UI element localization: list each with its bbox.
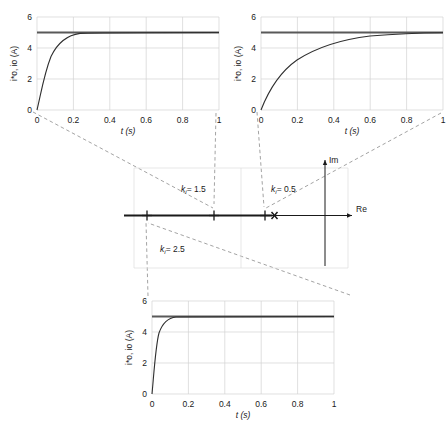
y-tick-6-tr: 6	[251, 12, 256, 22]
callout-lines-group	[33, 112, 441, 296]
gridlines-tr	[261, 17, 443, 110]
actual-current-trace-bottom	[152, 317, 334, 395]
gain-value-1p5: = 1.5	[187, 184, 206, 194]
x-axis-label-tl: t (s)	[121, 126, 136, 136]
y-tick-0-tr: 0	[251, 105, 256, 115]
x-ticks-bottom: 0 0.2 0.4 0.6 0.8 1	[150, 399, 337, 409]
callout-line-tr-to-pole05	[257, 112, 264, 207]
x-tick-02-tl: 0.2	[67, 115, 79, 125]
y-tick-4-tl: 4	[27, 43, 32, 53]
y-ticks-bottom: 6 4 2 0	[142, 296, 147, 399]
y-tick-4-bottom: 4	[142, 327, 147, 337]
y-axis-label-tl: i*o, io (A)	[9, 46, 19, 81]
callout-line-tl-right-to-pole15	[214, 113, 216, 204]
x-tick-08-tr: 0.8	[401, 115, 413, 125]
real-axis-label: Re	[356, 204, 367, 214]
y-tick-0-tl: 0	[27, 105, 32, 115]
imaginary-axis-label: Im	[329, 155, 338, 165]
gain-value-0p5: = 0.5	[277, 184, 296, 194]
x-tick-0-bottom: 0	[150, 399, 155, 409]
y-tick-4-tr: 4	[251, 43, 256, 53]
pole-marker-ki-0p5	[260, 211, 270, 221]
x-tick-02-bottom: 0.2	[182, 399, 194, 409]
gain-label-1p5: ki= 1.5	[181, 184, 206, 195]
gain-annotations-group: ki= 1.5 ki= 0.5 ki= 2.5	[160, 184, 296, 255]
y-tick-6-bottom: 6	[142, 296, 147, 306]
gain-value-2p5: = 2.5	[166, 244, 185, 254]
pole-marker-ki-2p5	[142, 211, 152, 221]
x-tick-04-tl: 0.4	[104, 115, 116, 125]
y-axis-label-bottom: i*o, io (A)	[124, 330, 134, 365]
x-tick-06-tl: 0.6	[140, 115, 152, 125]
y-tick-6-tl: 6	[27, 12, 32, 22]
x-tick-08-bottom: 0.8	[292, 399, 304, 409]
chart-response-ki-0p5: 6 4 2 0 0 0.2 0.4 0.6 0.8 1 t (s) i*o, i…	[233, 12, 446, 136]
y-tick-2-tl: 2	[27, 74, 32, 84]
x-tick-0-tr: 0	[259, 115, 264, 125]
y-tick-2-bottom: 2	[142, 358, 147, 368]
y-ticks-tr: 6 4 2 0	[251, 12, 256, 115]
x-tick-08-tl: 0.8	[177, 115, 189, 125]
x-tick-06-tr: 0.6	[364, 115, 376, 125]
callout-line-bottom-right-to-pole25	[148, 223, 350, 295]
x-tick-1-bottom: 1	[332, 399, 337, 409]
chart-response-ki-2p5: 6 4 2 0 0 0.2 0.4 0.6 0.8 1 t (s) i*o, i…	[124, 296, 337, 420]
x-ticks-tl: 0 0.2 0.4 0.6 0.8 1	[35, 115, 222, 125]
real-axis-arrowhead	[347, 213, 352, 217]
x-tick-0-tl: 0	[35, 115, 40, 125]
x-tick-02-tr: 0.2	[291, 115, 303, 125]
figure-canvas: 6 4 2 0 0 0.2 0.4 0.6 0.8 1 t (s) i*o, i…	[0, 0, 448, 427]
gain-label-0p5: ki= 0.5	[271, 184, 296, 195]
callout-line-bottom-to-pole25	[146, 222, 148, 296]
figure-root-locus-step-responses: 6 4 2 0 0 0.2 0.4 0.6 0.8 1 t (s) i*o, i…	[0, 0, 448, 427]
x-axis-label-bottom: t (s)	[236, 410, 251, 420]
y-ticks-tl: 6 4 2 0	[27, 12, 32, 115]
pole-marker-ki-1p5	[209, 211, 219, 221]
imaginary-axis-arrowhead	[323, 160, 327, 165]
x-tick-06-bottom: 0.6	[255, 399, 267, 409]
x-axis-label-tr: t (s)	[345, 126, 360, 136]
x-tick-1-tl: 1	[217, 115, 222, 125]
x-ticks-tr: 0 0.2 0.4 0.6 0.8 1	[259, 115, 446, 125]
gridlines-bottom	[152, 301, 334, 394]
gain-label-2p5: ki= 2.5	[160, 244, 185, 255]
chart-root-locus-complex-plane: Re Im ki= 1.5 ki= 0.5 ki= 2.5	[124, 155, 367, 268]
y-tick-0-bottom: 0	[142, 389, 147, 399]
actual-current-trace-tr	[261, 33, 443, 110]
y-tick-2-tr: 2	[251, 74, 256, 84]
x-tick-04-tr: 0.4	[328, 115, 340, 125]
chart-response-ki-1p5: 6 4 2 0 0 0.2 0.4 0.6 0.8 1 t (s) i*o, i…	[9, 12, 222, 136]
actual-current-trace-tl	[37, 33, 219, 111]
x-tick-1-tr: 1	[441, 115, 446, 125]
x-tick-04-bottom: 0.4	[219, 399, 231, 409]
gridlines-tl	[37, 17, 219, 110]
y-axis-label-tr: i*o, io (A)	[233, 46, 243, 81]
